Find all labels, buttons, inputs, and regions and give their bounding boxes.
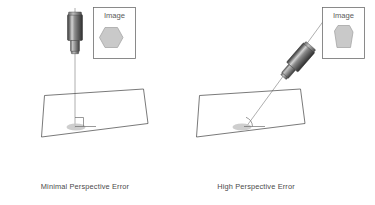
- caption-minimal-perspective-error: Minimal Perspective Error: [41, 182, 130, 191]
- camera-body-left: [68, 15, 83, 41]
- camera-lens-left: [71, 41, 80, 52]
- camera-lens-ring-left: [71, 51, 78, 53]
- contact-shadow-right: [233, 123, 252, 130]
- camera-left: [68, 12, 83, 54]
- target-plane-right: [197, 89, 306, 137]
- camera-right: [278, 41, 317, 82]
- contact-shadow-left: [67, 123, 86, 130]
- image-box-label-left: Image: [104, 11, 125, 20]
- target-plane-left: [42, 89, 149, 137]
- perspective-error-diagram: Image Minimal Perspective Error: [0, 0, 375, 205]
- captured-shape-left: [100, 28, 124, 48]
- diagram-canvas: Image Minimal Perspective Error: [0, 0, 375, 205]
- panel-minimal-perspective-error: Image Minimal Perspective Error: [41, 8, 148, 192]
- captured-shape-right: [335, 26, 354, 48]
- image-box-label-right: Image: [333, 11, 354, 20]
- caption-high-perspective-error: High Perspective Error: [217, 182, 295, 191]
- panel-high-perspective-error: Image High Perspective Error: [197, 8, 365, 192]
- camera-top-cap-left: [69, 12, 82, 15]
